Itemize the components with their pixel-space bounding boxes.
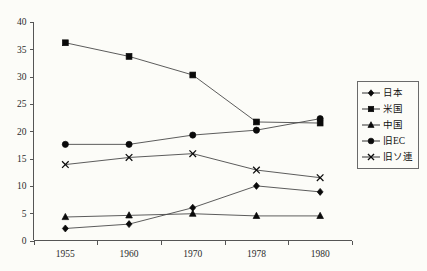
marker-diamond — [62, 225, 68, 232]
y-tick-label: 35 — [17, 45, 27, 55]
marker-diamond — [368, 90, 373, 96]
legend-marker-square-icon — [361, 102, 381, 116]
marker-square — [62, 40, 68, 46]
y-tick-label: 25 — [17, 99, 27, 109]
marker-diamond — [253, 182, 259, 189]
series-line — [65, 43, 320, 123]
x-tick-label: 1960 — [120, 249, 139, 259]
legend-item-label: 旧ソ連 — [381, 150, 413, 164]
marker-circle — [126, 141, 132, 147]
legend-item-5[interactable]: 旧ソ連 — [361, 149, 415, 165]
x-tick-label: 1955 — [56, 249, 75, 259]
legend-swatch — [361, 134, 381, 148]
marker-circle — [368, 138, 374, 144]
legend-marker-diamond-icon — [361, 86, 381, 100]
legend: 日本米国中国旧EC旧ソ連 — [357, 81, 419, 169]
marker-circle — [62, 141, 68, 147]
x-tick-label: 1978 — [247, 249, 266, 259]
legend-item-label: 中国 — [381, 118, 403, 132]
legend-item-2[interactable]: 米国 — [361, 101, 415, 117]
marker-square — [126, 54, 132, 60]
legend-marker-circle-icon — [361, 134, 381, 148]
line-chart: 0510152025303540 19551960197019781980 日本… — [0, 0, 427, 271]
series-1 — [62, 182, 323, 232]
x-tick-label: 1970 — [183, 249, 202, 259]
marker-diamond — [126, 221, 132, 228]
legend-swatch — [361, 102, 381, 116]
x-axis: 19551960197019781980 — [34, 241, 353, 259]
y-tick-label: 10 — [17, 181, 27, 191]
y-tick-label: 30 — [17, 72, 27, 82]
marker-square — [368, 106, 373, 111]
marker-square — [190, 72, 196, 78]
series-3 — [62, 210, 323, 219]
series-2 — [62, 40, 323, 126]
series-4 — [62, 116, 323, 148]
y-axis: 0510152025303540 — [17, 17, 34, 246]
series-5 — [62, 150, 323, 181]
legend-item-label: 米国 — [381, 102, 403, 116]
marker-circle — [317, 116, 323, 122]
marker-diamond — [317, 188, 323, 195]
legend-swatch — [361, 86, 381, 100]
marker-square — [254, 119, 260, 125]
marker-triangle — [317, 212, 324, 218]
y-tick-label: 15 — [17, 154, 27, 164]
legend-item-3[interactable]: 中国 — [361, 117, 415, 133]
legend-item-4[interactable]: 旧EC — [361, 133, 415, 149]
y-tick-label: 0 — [22, 236, 27, 246]
x-tick-label: 1980 — [311, 249, 330, 259]
marker-circle — [253, 127, 259, 133]
marker-triangle — [189, 210, 196, 216]
y-tick-label: 20 — [17, 127, 27, 137]
series-layer — [62, 40, 323, 232]
legend-marker-cross-icon — [361, 150, 381, 164]
series-line — [65, 154, 320, 178]
marker-circle — [190, 132, 196, 138]
y-tick-label: 5 — [22, 209, 27, 219]
legend-item-1[interactable]: 日本 — [361, 85, 415, 101]
legend-swatch — [361, 118, 381, 132]
legend-marker-triangle-icon — [361, 118, 381, 132]
legend-item-label: 日本 — [381, 86, 403, 100]
legend-swatch — [361, 150, 381, 164]
y-tick-label: 40 — [17, 17, 27, 27]
legend-item-label: 旧EC — [381, 134, 405, 148]
